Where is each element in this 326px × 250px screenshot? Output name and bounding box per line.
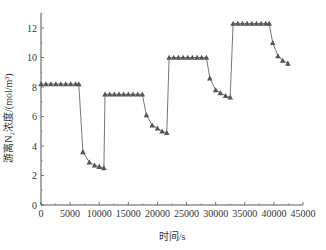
triangle-marker: [144, 112, 150, 117]
triangle-marker: [87, 159, 93, 164]
y-tick-label: 6: [32, 111, 37, 122]
triangle-marker: [149, 123, 155, 128]
x-tick-label: 25000: [174, 208, 199, 219]
x-tick-label: 45000: [291, 208, 316, 219]
x-tick-label: 40000: [261, 208, 286, 219]
chart: 0500010000150002000025000300003500040000…: [0, 0, 326, 250]
x-tick-label: 10000: [87, 208, 112, 219]
y-tick-label: 2: [32, 170, 37, 181]
y-tick-label: 10: [27, 52, 37, 63]
triangle-marker: [155, 126, 161, 131]
y-axis-title: 游离N₂浓度/(mol/m³): [2, 73, 15, 162]
y-tick-label: 12: [27, 23, 37, 34]
x-tick-label: 35000: [232, 208, 257, 219]
triangle-marker: [275, 53, 281, 58]
triangle-marker: [207, 75, 213, 80]
triangle-marker: [270, 40, 276, 45]
triangle-marker: [223, 93, 229, 98]
y-tick-label: 8: [32, 82, 37, 93]
x-tick-label: 5000: [60, 208, 80, 219]
triangle-marker: [213, 87, 219, 92]
x-tick-label: 20000: [145, 208, 170, 219]
y-tick-label: 4: [32, 141, 37, 152]
triangle-marker: [285, 61, 291, 66]
triangle-marker: [92, 162, 98, 167]
x-axis-title: 时间/s: [159, 230, 186, 242]
triangle-marker: [80, 149, 86, 154]
series-line: [41, 24, 288, 169]
triangle-marker: [159, 128, 165, 133]
x-tick-label: 30000: [203, 208, 228, 219]
data-series: [38, 21, 290, 171]
x-tick-label: 0: [39, 208, 44, 219]
x-tick-label: 15000: [116, 208, 141, 219]
triangle-marker: [218, 90, 224, 95]
y-tick-label: 0: [32, 200, 37, 211]
